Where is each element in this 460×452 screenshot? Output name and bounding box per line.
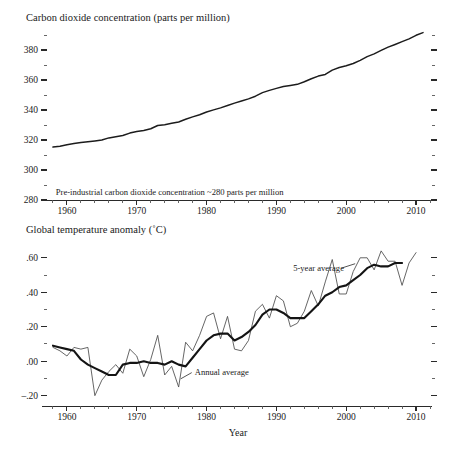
y-tick-label-co2: 320 — [24, 135, 39, 145]
y-tick-label-temp: .00 — [26, 357, 38, 367]
y-tick-label-temp: .40 — [26, 288, 38, 298]
x-axis-title: Year — [229, 427, 248, 438]
panel-title-co2: Carbon dioxide concentration (parts per … — [26, 12, 230, 24]
series-mauna-loa-co2-annual-mean — [53, 33, 423, 147]
y-tick-label-temp: –.20 — [20, 391, 38, 401]
five-year-average-label: 5-year average — [293, 263, 344, 273]
annual-average-leader — [181, 373, 192, 379]
panel-title-temp: Global temperature anomaly (˚C) — [26, 224, 167, 236]
y-tick-label-temp: .20 — [26, 322, 38, 332]
series-5-year-average — [53, 263, 402, 375]
x-tick-label-temp: 1990 — [267, 412, 286, 422]
x-tick-label-temp: 2000 — [337, 412, 356, 422]
x-tick-label-co2: 1980 — [197, 206, 216, 216]
climate-figure: Carbon dioxide concentration (parts per … — [0, 0, 460, 452]
x-tick-label-co2: 2010 — [407, 206, 426, 216]
panel-temp: Global temperature anomaly (˚C).60.40.20… — [20, 224, 437, 422]
x-tick-label-temp: 2010 — [407, 412, 426, 422]
annual-average-label: Annual average — [195, 367, 249, 377]
x-tick-label-co2: 1960 — [57, 206, 76, 216]
y-tick-label-temp: .60 — [26, 253, 38, 263]
y-tick-label-co2: 340 — [24, 105, 39, 115]
panel-co2: Carbon dioxide concentration (parts per … — [24, 12, 437, 216]
x-tick-label-temp: 1960 — [57, 412, 76, 422]
y-tick-label-co2: 360 — [24, 75, 39, 85]
x-tick-label-co2: 2000 — [337, 206, 356, 216]
y-tick-label-co2: 300 — [24, 165, 39, 175]
x-tick-label-co2: 1990 — [267, 206, 286, 216]
figure-canvas: Carbon dioxide concentration (parts per … — [0, 0, 460, 452]
pre-industrial-note: Pre-industrial carbon dioxide concentrat… — [56, 187, 284, 197]
y-tick-label-co2: 280 — [24, 195, 39, 205]
x-tick-label-temp: 1980 — [197, 412, 216, 422]
x-tick-label-temp: 1970 — [127, 412, 146, 422]
x-tick-label-co2: 1970 — [127, 206, 146, 216]
y-tick-label-co2: 380 — [24, 45, 39, 55]
